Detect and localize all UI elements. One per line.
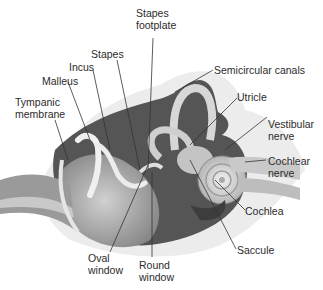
label-utricle: Utricle [237, 91, 267, 103]
label-incus: Incus [69, 61, 94, 73]
label-semicircular-canals: Semicircular canals [214, 64, 305, 76]
label-malleus: Malleus [42, 75, 78, 87]
label-cochlear-nerve: Cochlear nerve [268, 155, 310, 179]
label-tympanic-membrane: Tympanic membrane [15, 96, 65, 120]
label-cochlea: Cochlea [245, 205, 284, 217]
label-oval-window: Oval window [88, 252, 123, 276]
label-round-window: Round window [139, 259, 174, 283]
ear-illustration [0, 0, 323, 290]
label-stapes: Stapes [91, 48, 124, 60]
ear-anatomy-diagram: Stapes footplate Stapes Incus Malleus Ty… [0, 0, 323, 290]
label-saccule: Saccule [237, 244, 274, 256]
label-vestibular-nerve: Vestibular nerve [268, 118, 314, 142]
label-stapes-footplate: Stapes footplate [136, 7, 176, 31]
